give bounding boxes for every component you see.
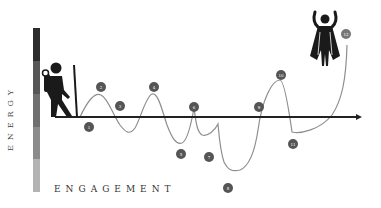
marker-12: 12 — [341, 29, 351, 39]
marker-9: 9 — [254, 102, 264, 112]
svg-text:9: 9 — [258, 105, 261, 110]
marker-11: 11 — [288, 139, 298, 149]
x-axis-arrow-icon — [356, 114, 362, 120]
marker-2: 2 — [96, 82, 106, 92]
marker-5: 5 — [176, 149, 186, 159]
engagement-energy-diagram: 1 2 3 4 5 6 7 8 9 10 11 12 — [0, 0, 381, 208]
marker-4: 4 — [149, 82, 159, 92]
marker-7: 7 — [204, 152, 214, 162]
marker-6: 6 — [189, 102, 199, 112]
svg-text:12: 12 — [343, 32, 349, 37]
svg-text:1: 1 — [88, 125, 91, 130]
marker-8: 8 — [223, 183, 233, 193]
svg-text:8: 8 — [227, 186, 230, 191]
svg-text:7: 7 — [208, 155, 211, 160]
svg-text:3: 3 — [119, 104, 122, 109]
marker-1: 1 — [84, 122, 94, 132]
svg-text:2: 2 — [100, 85, 103, 90]
svg-text:4: 4 — [153, 85, 156, 90]
marker-10: 10 — [276, 70, 286, 80]
svg-text:11: 11 — [290, 142, 295, 147]
svg-text:6: 6 — [193, 105, 196, 110]
marker-3: 3 — [115, 101, 125, 111]
svg-text:10: 10 — [278, 73, 284, 78]
hero-cape-icon — [310, 12, 340, 66]
hiker-icon — [43, 63, 78, 118]
svg-text:5: 5 — [180, 152, 183, 157]
